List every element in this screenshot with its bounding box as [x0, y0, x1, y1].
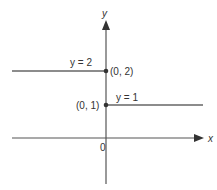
y-axis-label: y — [101, 8, 108, 19]
equation-y1-label: y = 1 — [116, 92, 138, 103]
point-0-1 — [104, 103, 109, 108]
point-0-2 — [104, 69, 109, 74]
point-0-1-label: (0, 1) — [76, 100, 99, 111]
y-axis-arrow-icon — [102, 20, 110, 30]
origin-label: 0 — [100, 142, 106, 153]
equation-y2-label: y = 2 — [70, 57, 92, 68]
point-0-2-label: (0, 2) — [110, 66, 133, 77]
x-axis-arrow-icon — [194, 134, 204, 142]
x-axis-label: x — [207, 133, 214, 144]
diagram-svg: y x 0 y = 2 (0, 2) y = 1 (0, 1) — [0, 0, 217, 190]
step-function-diagram: y x 0 y = 2 (0, 2) y = 1 (0, 1) — [0, 0, 217, 190]
